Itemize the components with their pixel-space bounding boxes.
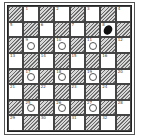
hatched-square: [8, 37, 23, 53]
board-square[interactable]: 12: [116, 37, 131, 53]
board-square[interactable]: 25: [23, 100, 38, 116]
hatched-square: [116, 53, 131, 69]
board-square[interactable]: 20: [116, 69, 131, 85]
square-number: 16: [102, 54, 107, 58]
hatched-square: [100, 37, 115, 53]
hatched-square: [54, 115, 69, 131]
board-square[interactable]: 2: [54, 6, 69, 22]
hatched-square: [85, 22, 100, 38]
board-square[interactable]: 24: [100, 84, 115, 100]
square-number: 14: [41, 54, 46, 58]
board-square[interactable]: 3: [85, 6, 100, 22]
board-square[interactable]: 1: [23, 6, 38, 22]
hatched-square: [100, 100, 115, 116]
hatched-square: [85, 84, 100, 100]
board-square[interactable]: 10: [54, 37, 69, 53]
hatched-square: [39, 37, 54, 53]
hatched-square: [100, 69, 115, 85]
white-piece-icon[interactable]: [27, 104, 35, 112]
square-number: 12: [118, 38, 123, 42]
square-number: 23: [72, 85, 77, 89]
square-number: 21: [10, 85, 15, 89]
board-square[interactable]: 16: [100, 53, 115, 69]
hatched-square: [70, 37, 85, 53]
board-square[interactable]: 11: [85, 37, 100, 53]
square-number: 15: [72, 54, 77, 58]
board-square[interactable]: 28: [116, 100, 131, 116]
checkers-board: 1234567891011121314151617181920212223242…: [7, 5, 132, 132]
hatched-square: [39, 69, 54, 85]
square-number: 30: [41, 116, 46, 120]
hatched-square: [85, 115, 100, 131]
square-number: 2: [56, 7, 59, 11]
white-piece-icon[interactable]: [58, 42, 66, 50]
hatched-square: [70, 100, 85, 116]
board-square[interactable]: 15: [70, 53, 85, 69]
board-square[interactable]: 27: [85, 100, 100, 116]
board-square[interactable]: 17: [23, 69, 38, 85]
board-square[interactable]: 9: [23, 37, 38, 53]
white-piece-icon[interactable]: [27, 42, 35, 50]
board-square[interactable]: 5: [8, 22, 23, 38]
square-number: 28: [118, 101, 123, 105]
hatched-square: [116, 84, 131, 100]
board-square[interactable]: 7: [70, 22, 85, 38]
board-square[interactable]: 32: [100, 115, 115, 131]
board-square[interactable]: 4: [116, 6, 131, 22]
board-square[interactable]: 22: [39, 84, 54, 100]
square-number: 5: [10, 23, 13, 27]
board-square[interactable]: 6: [39, 22, 54, 38]
board-square[interactable]: 26: [54, 100, 69, 116]
hatched-square: [116, 115, 131, 131]
board-square[interactable]: 13: [8, 53, 23, 69]
board-square[interactable]: 23: [70, 84, 85, 100]
square-number: 1: [25, 7, 28, 11]
hatched-square: [54, 84, 69, 100]
square-number: 24: [102, 85, 107, 89]
hatched-square: [23, 84, 38, 100]
hatched-square: [8, 6, 23, 22]
hatched-square: [54, 22, 69, 38]
board-square[interactable]: 19: [85, 69, 100, 85]
square-number: 7: [72, 23, 75, 27]
board-square[interactable]: 31: [70, 115, 85, 131]
hatched-square: [23, 53, 38, 69]
white-piece-icon[interactable]: [58, 73, 66, 81]
hatched-square: [70, 69, 85, 85]
board-square[interactable]: 30: [39, 115, 54, 131]
square-number: 13: [10, 54, 15, 58]
square-number: 4: [118, 7, 121, 11]
hatched-square: [23, 115, 38, 131]
square-number: 32: [102, 116, 107, 120]
square-number: 3: [87, 7, 90, 11]
hatched-square: [100, 6, 115, 22]
hatched-square: [23, 22, 38, 38]
hatched-square: [39, 6, 54, 22]
square-number: 22: [41, 85, 46, 89]
square-number: 31: [72, 116, 77, 120]
hatched-square: [70, 6, 85, 22]
board-square[interactable]: 21: [8, 84, 23, 100]
white-piece-icon[interactable]: [89, 104, 97, 112]
board-square[interactable]: 14: [39, 53, 54, 69]
square-number: 6: [41, 23, 44, 27]
white-piece-icon[interactable]: [89, 73, 97, 81]
square-number: 29: [10, 116, 15, 120]
board-square[interactable]: 18: [54, 69, 69, 85]
board-square[interactable]: 8: [100, 22, 115, 38]
white-piece-icon[interactable]: [58, 104, 66, 112]
white-piece-icon[interactable]: [27, 73, 35, 81]
hatched-square: [8, 69, 23, 85]
white-piece-icon[interactable]: [89, 42, 97, 50]
square-number: 20: [118, 70, 123, 74]
hatched-square: [8, 100, 23, 116]
hatched-square: [116, 22, 131, 38]
hatched-square: [39, 100, 54, 116]
board-square[interactable]: 29: [8, 115, 23, 131]
hatched-square: [54, 53, 69, 69]
hatched-square: [85, 53, 100, 69]
